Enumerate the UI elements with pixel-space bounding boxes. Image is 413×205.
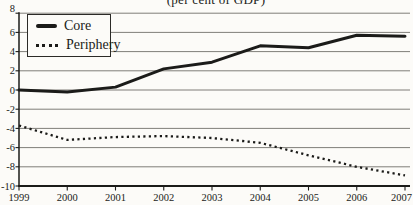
solid-line-icon xyxy=(36,24,57,28)
legend-label-core: Core xyxy=(64,18,91,34)
legend: Core Periphery xyxy=(27,14,111,57)
y-tick-label: -2 xyxy=(6,104,15,115)
x-tick-label: 2005 xyxy=(298,192,319,203)
y-tick-label: 6 xyxy=(10,27,15,38)
y-tick-label: -4 xyxy=(6,123,15,134)
periphery-line xyxy=(19,126,405,176)
x-tick-label: 2006 xyxy=(346,192,367,203)
x-tick-label: 2003 xyxy=(202,192,223,203)
y-tick-label: 4 xyxy=(10,46,16,57)
dotted-line-icon xyxy=(36,44,59,47)
y-tick-label: -6 xyxy=(6,142,15,153)
legend-item-core: Core xyxy=(36,18,110,34)
chart-figure: (per cent of GDP) 86420-2-4-6-8-10199920… xyxy=(0,0,413,205)
y-tick-label: 8 xyxy=(10,3,15,14)
y-tick-label: 2 xyxy=(10,65,15,76)
y-tick-label: 0 xyxy=(10,85,15,96)
y-tick-label: -10 xyxy=(1,181,15,192)
x-tick-label: 2002 xyxy=(153,192,174,203)
x-tick-label: 2001 xyxy=(105,192,126,203)
x-tick-label: 1999 xyxy=(9,192,30,203)
legend-label-periphery: Periphery xyxy=(66,37,120,53)
x-tick-label: 2007 xyxy=(391,192,412,203)
legend-item-periphery: Periphery xyxy=(36,37,110,53)
x-tick-label: 2000 xyxy=(57,192,78,203)
y-tick-label: -8 xyxy=(6,161,15,172)
x-tick-label: 2004 xyxy=(250,192,272,203)
